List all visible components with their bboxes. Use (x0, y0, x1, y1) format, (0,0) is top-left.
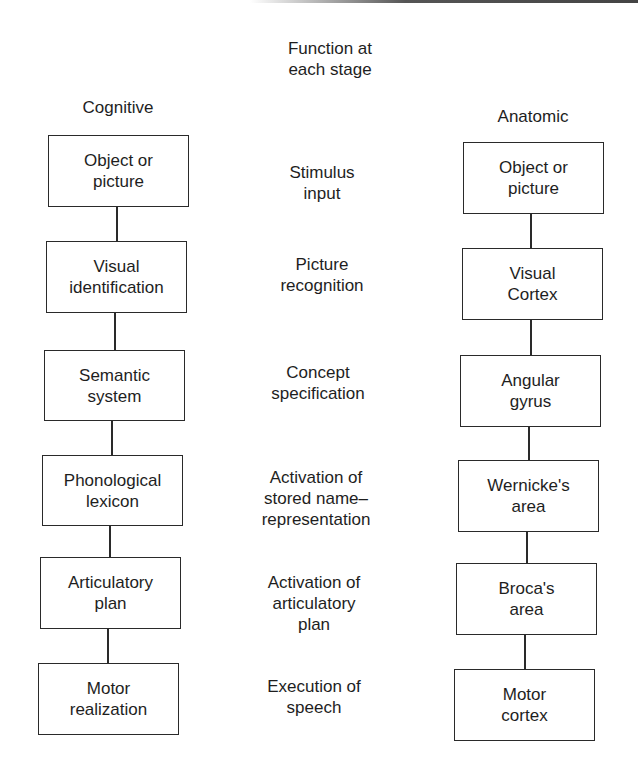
cognitive-box-articulatory-plan: Articulatory plan (40, 557, 181, 629)
anatomic-box-wernickes-area: Wernicke's area (458, 460, 599, 532)
connector-line (530, 320, 532, 356)
connector-line (116, 207, 118, 241)
anatomic-box-brocas-area: Broca's area (456, 563, 597, 635)
cognitive-column-title: Cognitive (58, 97, 178, 118)
function-label-articulatory-plan-activation: Activation of articulatory plan (224, 572, 404, 635)
anatomic-box-motor-cortex: Motor cortex (454, 669, 595, 741)
connector-line (111, 421, 113, 455)
connector-line (526, 532, 528, 564)
connector-line (530, 214, 532, 248)
anatomic-box-object-or-picture: Object or picture (463, 142, 604, 214)
connector-line (528, 427, 530, 462)
cognitive-box-motor-realization: Motor realization (38, 663, 179, 735)
cognitive-box-visual-identification: Visual identification (46, 241, 187, 313)
connector-line (109, 526, 111, 557)
function-column-title: Function at each stage (240, 38, 420, 80)
connector-line (114, 313, 116, 350)
connector-line (524, 635, 526, 670)
connector-line (107, 629, 109, 663)
function-label-execution-of-speech: Execution of speech (224, 676, 404, 718)
cognitive-box-phonological-lexicon: Phonological lexicon (42, 455, 183, 526)
anatomic-column-title: Anatomic (473, 106, 593, 127)
function-label-concept-specification: Concept specification (228, 362, 408, 404)
cognitive-box-object-or-picture: Object or picture (48, 135, 189, 207)
function-label-stored-name-activation: Activation of stored name– representatio… (226, 467, 406, 530)
anatomic-box-angular-gyrus: Angular gyrus (460, 355, 601, 427)
page-edge-line (250, 0, 638, 3)
function-label-stimulus-input: Stimulus input (232, 162, 412, 204)
anatomic-box-visual-cortex: Visual Cortex (462, 248, 603, 320)
function-label-picture-recognition: Picture recognition (232, 254, 412, 296)
cognitive-box-semantic-system: Semantic system (44, 350, 185, 421)
